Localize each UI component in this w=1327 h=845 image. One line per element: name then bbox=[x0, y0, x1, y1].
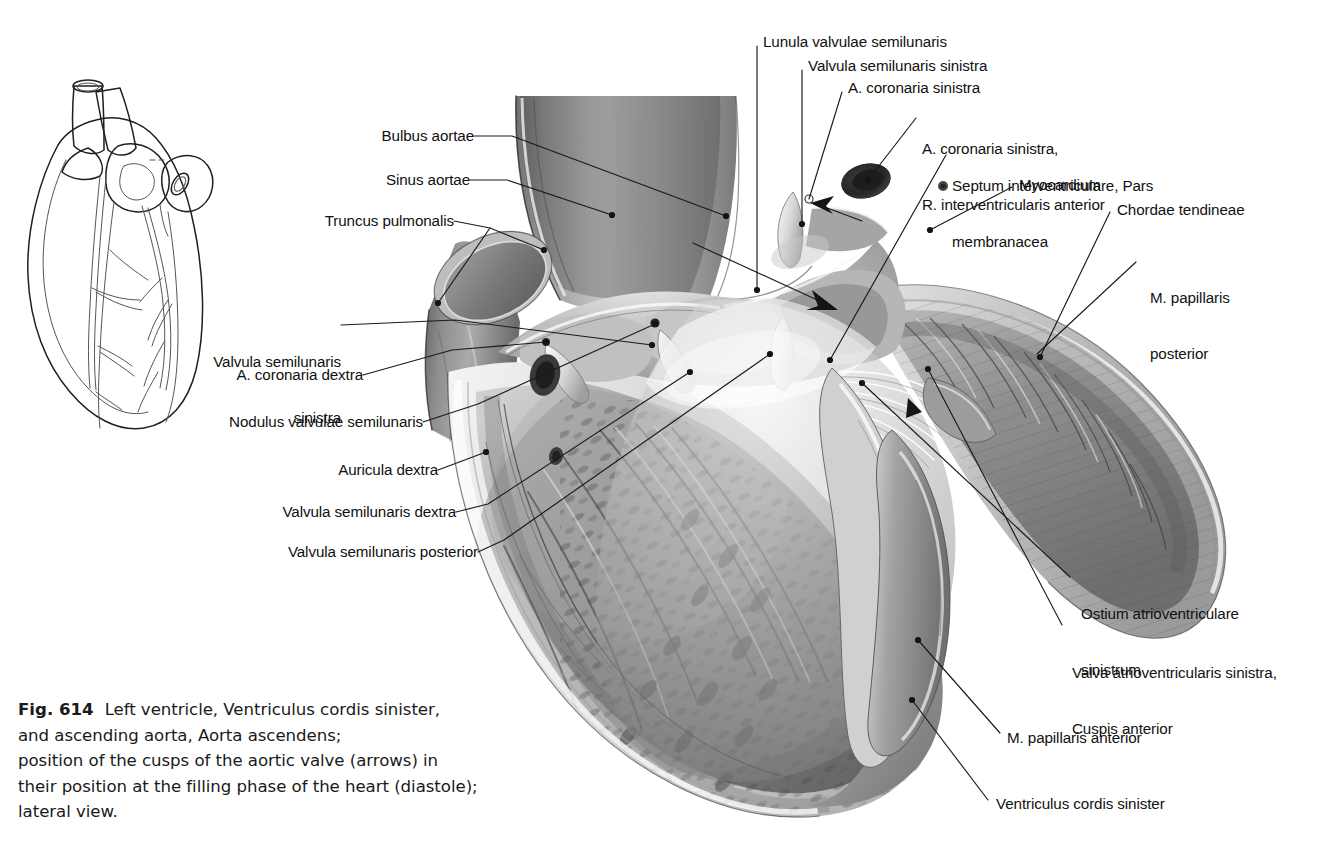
label-line-2: membranacea bbox=[952, 233, 1153, 252]
figure-number: Fig. 614 bbox=[18, 700, 94, 719]
label-truncus-pulmonalis: Truncus pulmonalis bbox=[110, 212, 454, 231]
caption-line-1: Left ventricle, Ventriculus cordis sinis… bbox=[105, 700, 440, 719]
label-lunula-valvulae-semilunaris: Lunula valvulae semilunaris bbox=[763, 33, 947, 52]
caption-line-5: lateral view. bbox=[18, 802, 118, 821]
caption-line-4: their position at the filling phase of t… bbox=[18, 777, 478, 796]
label-sinus-aortae: Sinus aortae bbox=[150, 171, 470, 190]
label-bulbus-aortae: Bulbus aortae bbox=[150, 127, 474, 146]
label-valvula-semilunaris-sinistra-top: Valvula semilunaris sinistra bbox=[808, 57, 987, 76]
label-line-1: Valva atrioventricularis sinistra, bbox=[1072, 664, 1277, 683]
label-m-papillaris-anterior: M. papillaris anterior bbox=[1007, 729, 1142, 748]
label-a-coronaria-sinistra: A. coronaria sinistra bbox=[848, 79, 980, 98]
label-ventriculus-cordis-sinister: Ventriculus cordis sinister bbox=[996, 795, 1165, 814]
label-myocardium: Myocardium bbox=[1019, 176, 1101, 195]
label-m-papillaris-posterior: M. papillaris posterior bbox=[1150, 252, 1230, 400]
caption-line-2: and ascending aorta, Aorta ascendens; bbox=[18, 726, 341, 745]
label-valva-atrioventricularis-sinistra-cuspis-anterior: Valva atrioventricularis sinistra, Cuspi… bbox=[1072, 627, 1277, 775]
label-chordae-tendineae: Chordae tendineae bbox=[1117, 201, 1245, 220]
label-valvula-semilunaris-sinistra: Valvula semilunaris sinistra bbox=[60, 316, 341, 464]
caption-line-3: position of the cusps of the aortic valv… bbox=[18, 751, 438, 770]
label-valvula-semilunaris-dextra: Valvula semilunaris dextra bbox=[100, 503, 456, 522]
figure-container: Bulbus aortae Sinus aortae Truncus pulmo… bbox=[0, 0, 1327, 845]
label-auricula-dextra: Auricula dextra bbox=[120, 461, 438, 480]
figure-caption: Fig. 614Left ventricle, Ventriculus cord… bbox=[18, 697, 578, 825]
label-line-1: Ostium atrioventriculare bbox=[1081, 605, 1239, 624]
label-line-2: posterior bbox=[1150, 345, 1230, 364]
label-valvula-semilunaris-posterior: Valvula semilunaris posterior bbox=[90, 543, 478, 562]
label-line-1: M. papillaris bbox=[1150, 289, 1230, 308]
label-a-coronaria-dextra: A. coronaria dextra bbox=[70, 366, 363, 385]
label-nodulus-valvulae-semilunaris: Nodulus valvulae semilunaris bbox=[60, 413, 423, 432]
